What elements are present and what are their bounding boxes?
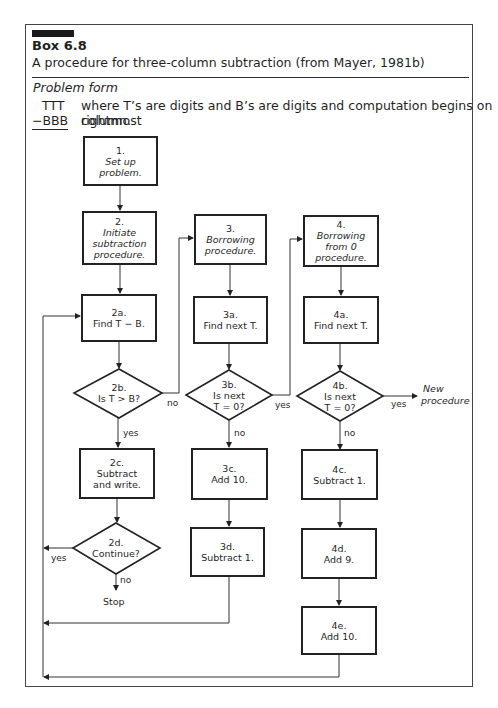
- step-4a-find-next-t: 4a. Find next T.: [303, 296, 379, 344]
- step-4-text2: from 0: [325, 241, 356, 252]
- decision-2d-id: 2d.: [92, 537, 140, 548]
- edge-label-2d-yes: yes: [51, 553, 67, 563]
- decision-2d-text: Continue?: [92, 548, 140, 559]
- step-2-text: Initiate: [103, 227, 136, 238]
- step-4e-id: 4e.: [332, 620, 347, 631]
- step-4d-add-9: 4d. Add 9.: [301, 528, 377, 579]
- new-procedure-line1: New: [421, 383, 470, 395]
- flowchart-connectors: [0, 0, 498, 708]
- step-2c-text: Subtract: [97, 468, 137, 479]
- step-1-text2: problem.: [99, 167, 142, 178]
- step-3-text: Borrowing: [206, 234, 254, 245]
- decision-3b-text: Is next: [213, 390, 245, 401]
- step-1-set-up-problem: 1. Set up problem.: [83, 136, 158, 186]
- step-2c-text2: and write.: [93, 479, 141, 490]
- step-3c-add-10: 3c. Add 10.: [191, 448, 268, 500]
- edge-label-2b-yes: yes: [123, 428, 139, 438]
- edge-label-4b-no: no: [344, 428, 355, 438]
- step-4-text3: procedure.: [315, 252, 367, 263]
- step-2-text3: procedure.: [94, 249, 146, 260]
- step-4d-text: Add 9.: [324, 554, 354, 565]
- edge-label-4b-yes: yes: [391, 399, 407, 409]
- step-4d-id: 4d.: [331, 543, 346, 554]
- step-3-borrowing-procedure: 3. Borrowing procedure.: [194, 214, 267, 265]
- step-4e-text: Add 10.: [321, 631, 358, 642]
- decision-4b-text2: T = 0?: [324, 402, 356, 413]
- step-3-id: 3.: [226, 223, 235, 234]
- step-4a-id: 4a.: [334, 309, 349, 320]
- step-4c-text: Subtract 1.: [313, 475, 366, 486]
- decision-4b-text: Is next: [324, 391, 356, 402]
- edge-label-2d-no: no: [120, 575, 131, 585]
- step-4-borrowing-from-0: 4. Borrowing from 0 procedure.: [303, 215, 379, 267]
- step-4-text: Borrowing: [317, 230, 365, 241]
- step-4a-text: Find next T.: [314, 320, 368, 331]
- step-3a-id: 3a.: [223, 309, 238, 320]
- step-2c-id: 2c.: [110, 457, 124, 468]
- step-3a-text: Find next T.: [203, 320, 257, 331]
- step-4c-subtract-1: 4c. Subtract 1.: [301, 449, 378, 500]
- step-3-text2: procedure.: [205, 245, 257, 256]
- step-1-text: Set up: [105, 156, 136, 167]
- step-3c-id: 3c.: [222, 463, 236, 474]
- decision-3b-text2: T = 0?: [213, 401, 245, 412]
- decision-4b-id: 4b.: [324, 380, 356, 391]
- step-1-id: 1.: [116, 145, 125, 156]
- step-2c-subtract-and-write: 2c. Subtract and write.: [79, 448, 155, 499]
- step-3d-text: Subtract 1.: [201, 552, 254, 563]
- new-procedure-line2: procedure: [421, 395, 470, 407]
- decision-2b-text: Is T > B?: [98, 393, 140, 404]
- stop-terminal: Stop: [103, 596, 125, 607]
- step-2a-find-t-minus-b: 2a. Find T − B.: [81, 294, 157, 342]
- edge-label-3b-no: no: [234, 428, 245, 438]
- step-3d-id: 3d.: [220, 541, 235, 552]
- decision-4b: 4b. Is next T = 0?: [324, 380, 356, 413]
- step-3a-find-next-t: 3a. Find next T.: [193, 296, 268, 344]
- step-3d-subtract-1: 3d. Subtract 1.: [190, 527, 265, 577]
- step-2a-text: Find T − B.: [93, 318, 145, 329]
- decision-3b: 3b. Is next T = 0?: [213, 379, 245, 412]
- step-2-initiate-subtraction: 2. Initiate subtraction procedure.: [82, 211, 157, 265]
- step-4-id: 4.: [336, 219, 345, 230]
- step-2a-id: 2a.: [112, 307, 127, 318]
- step-4c-id: 4c.: [332, 464, 346, 475]
- decision-2b-id: 2b.: [98, 382, 140, 393]
- step-2-text2: subtraction: [93, 238, 147, 249]
- edge-label-3b-yes: yes: [275, 400, 291, 410]
- edge-label-2b-no: no: [167, 398, 178, 408]
- new-procedure-label: New procedure: [421, 383, 470, 407]
- decision-2d: 2d. Continue?: [92, 537, 140, 559]
- step-4e-add-10: 4e. Add 10.: [301, 606, 377, 655]
- decision-2b: 2b. Is T > B?: [98, 382, 140, 404]
- step-3c-text: Add 10.: [211, 474, 248, 485]
- step-2-id: 2.: [115, 216, 124, 227]
- decision-3b-id: 3b.: [213, 379, 245, 390]
